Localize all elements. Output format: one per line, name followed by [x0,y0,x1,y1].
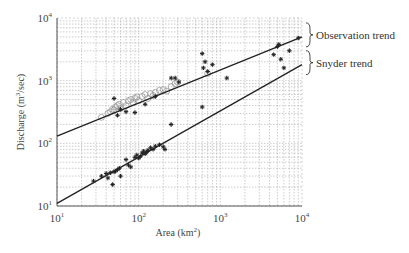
data-point-star [124,109,128,113]
data-point-star [112,96,116,100]
x-tick-label: 104 [295,211,310,224]
y-tick-label: 101 [38,199,53,212]
y-tick-labels: 101102103104 [38,11,53,212]
data-point-star [177,80,181,84]
trend-line [57,65,302,204]
data-point-star [169,76,173,80]
data-point-star [106,176,110,180]
data-point-star [200,51,204,55]
trend-annotations: Observation trendSnyder trend [306,23,396,75]
y-axis-title: Discharge (m3/sec) [14,74,27,150]
brace-icon [306,51,313,75]
plot-frame [57,18,302,206]
data-point-star [210,62,214,66]
data-point-star [143,102,147,106]
brace-icon [306,23,313,47]
data-point-star [133,110,137,114]
x-tick-label: 103 [213,211,228,224]
data-point-star [282,66,286,70]
data-point-star [287,49,291,53]
data-point-star [163,147,167,151]
data-point-star [118,174,122,178]
data-point-star [225,76,229,80]
x-axis-title: Area (km2) [156,226,201,239]
x-tick-label: 101 [50,211,65,224]
data-point-star [110,182,114,186]
grid [57,18,302,206]
data-point-star [203,60,207,64]
data-point-star [115,113,119,117]
y-tick-label: 104 [38,11,53,24]
x-axis-title-text: Area (km [156,227,194,239]
data-point-star [205,69,209,73]
x-tick-labels: 101102103104 [50,211,310,224]
y-tick-label: 103 [38,74,53,87]
x-tick-label: 102 [131,211,146,224]
trend-annotation-label: Snyder trend [316,57,373,69]
trend-annotation-label: Observation trend [316,29,396,41]
data-point-star [271,52,275,56]
data-point-star [201,66,205,70]
data-point-star [169,122,173,126]
chart: 101102103104 101102103104 Area (km2) Dis… [0,0,409,253]
y-tick-label: 102 [38,136,53,149]
data-point-star [279,57,283,61]
data-point-star [124,157,128,161]
data-point-star [129,165,133,169]
data-point-star [200,105,204,109]
data-point-star [173,76,177,80]
